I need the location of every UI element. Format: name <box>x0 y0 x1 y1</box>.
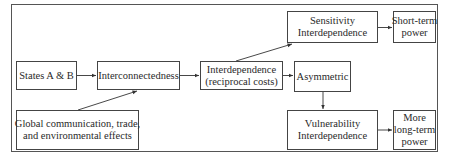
node-states: States A & B <box>16 61 77 90</box>
arrow-global-to-interconnectedness <box>78 91 137 110</box>
node-sensitivity: Sensitivity Interdependence <box>287 11 378 43</box>
node-long-term-line1: More <box>403 112 426 124</box>
node-global-line2: and environmental effects <box>23 130 132 142</box>
node-short-term-line1: Short-term <box>392 15 438 27</box>
node-interdependence-line2: (reciprocal costs) <box>205 76 278 88</box>
node-global-effects: Global communication, trade, and environ… <box>16 110 139 150</box>
node-interdependence: Interdependence (reciprocal costs) <box>200 61 283 90</box>
node-vulnerability-line2: Interdependence <box>298 130 367 142</box>
node-interdependence-line1: Interdependence <box>207 64 276 76</box>
node-sensitivity-line1: Sensitivity <box>310 15 355 27</box>
node-sensitivity-line2: Interdependence <box>298 27 367 39</box>
node-interconnectedness: Interconnectedness <box>97 61 180 90</box>
node-short-term-line2: power <box>401 27 427 39</box>
node-states-label: States A & B <box>19 70 74 82</box>
node-asymmetric-label: Asymmetric <box>297 71 349 83</box>
node-global-line1: Global communication, trade, <box>15 118 140 130</box>
node-asymmetric: Asymmetric <box>294 61 351 92</box>
node-vulnerability: Vulnerability Interdependence <box>287 110 378 150</box>
node-long-term-line3: power <box>401 136 427 148</box>
arrow-interdependence-to-sensitivity <box>236 44 292 61</box>
node-long-term-line2: long-term <box>394 124 435 136</box>
node-short-term-power: Short-term power <box>393 11 436 43</box>
node-long-term-power: More long-term power <box>393 110 436 150</box>
node-vulnerability-line1: Vulnerability <box>305 118 360 130</box>
node-interconnectedness-label: Interconnectedness <box>98 70 178 82</box>
